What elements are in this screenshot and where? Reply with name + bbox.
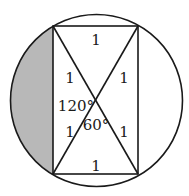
label-angle-60: 60° xyxy=(83,116,110,134)
label-lower-left-diagonal: 1 xyxy=(65,123,75,141)
shaded-segment xyxy=(11,26,53,174)
label-upper-left-diagonal: 1 xyxy=(65,69,75,87)
label-top-side: 1 xyxy=(91,31,101,49)
label-bottom-side: 1 xyxy=(91,157,101,175)
label-lower-right-diagonal: 1 xyxy=(119,123,129,141)
geometry-figure: 1 1 1 1 1 1 120° 60° xyxy=(0,0,189,196)
label-upper-right-diagonal: 1 xyxy=(119,69,129,87)
label-angle-120: 120° xyxy=(58,97,94,115)
